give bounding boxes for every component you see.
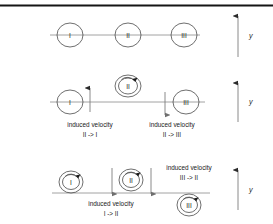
panel3-induced-velocity-left: induced velocity I -> II bbox=[88, 168, 134, 217]
panel3-induced-right-line2: III -> II bbox=[180, 174, 199, 181]
panel1-y-axis: y bbox=[238, 16, 253, 57]
panel3-vortex-II-label: II bbox=[129, 177, 133, 184]
panel3-induced-left-line1: induced velocity bbox=[88, 200, 134, 208]
panel3-y-axis: y bbox=[238, 170, 253, 210]
panel3-induced-velocity-right: induced velocity III -> II bbox=[151, 164, 213, 194]
panel1-vortex-I-label: I bbox=[69, 32, 71, 39]
panel3-vortex-I-label: I bbox=[70, 179, 72, 186]
panel2-induced-left-line1: induced velocity bbox=[67, 121, 113, 129]
panel3-vortex-III-label: III bbox=[186, 202, 192, 209]
panel2-y-axis: y bbox=[238, 83, 253, 122]
panel-3: I II III induced velocity I -> II bbox=[52, 164, 253, 217]
panel2-induced-right-line2: II -> III bbox=[163, 131, 182, 138]
panel1-vortex-III-label: III bbox=[181, 32, 187, 39]
panel-1: I II III y bbox=[50, 16, 253, 57]
panel3-vortex-III: III bbox=[177, 194, 201, 216]
panel1-y-axis-label: y bbox=[248, 31, 253, 40]
panel2-induced-right-line1: induced velocity bbox=[149, 121, 195, 129]
panel-2: I II III induced velocity II -> I bbox=[50, 75, 253, 138]
panel2-vortex-III-label: III bbox=[183, 99, 189, 106]
panel3-vortex-II: II bbox=[119, 169, 143, 191]
panel1-vortex-II-label: II bbox=[126, 32, 130, 39]
panel2-vortex-II-label: II bbox=[126, 83, 130, 90]
panel2-y-axis-label: y bbox=[248, 97, 253, 106]
panel3-vortex-I: I bbox=[59, 171, 83, 193]
vortex-diagram-figure: I II III y I bbox=[0, 0, 273, 224]
diagram-canvas: I II III y I bbox=[0, 0, 273, 224]
panel3-induced-left-line2: I -> II bbox=[104, 210, 119, 217]
panel2-vortex-II: II bbox=[115, 75, 141, 97]
panel2-vortex-I-label: I bbox=[69, 99, 71, 106]
panel3-induced-right-line1: induced velocity bbox=[166, 164, 212, 172]
panel3-y-axis-label: y bbox=[248, 185, 253, 194]
panel2-induced-left-line2: II -> I bbox=[83, 131, 98, 138]
